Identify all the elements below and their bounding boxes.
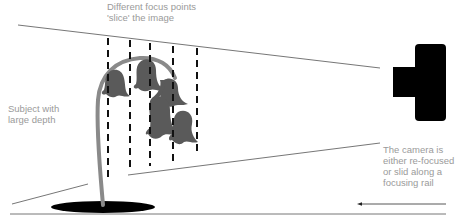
camera-label: The camera is either re-focused or slid … xyxy=(383,144,454,188)
cone-bottom-line xyxy=(128,143,380,175)
cone-bottom-left-line xyxy=(12,184,88,204)
cone-top-line xyxy=(18,25,380,68)
subject-label: Subject with large depth xyxy=(8,103,59,125)
camera-body xyxy=(415,44,446,121)
left-arrow-icon xyxy=(357,202,446,206)
focus-points-label: Different focus points 'slice' the image xyxy=(107,1,196,23)
focus-stacking-diagram: Different focus points 'slice' the image… xyxy=(0,0,462,221)
camera-icon xyxy=(393,44,446,121)
